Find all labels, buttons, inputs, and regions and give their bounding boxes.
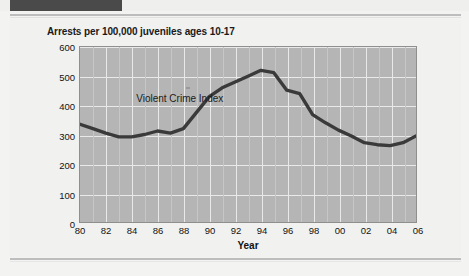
x-tick-label-88: 88 bbox=[179, 225, 190, 236]
header-band bbox=[0, 0, 469, 11]
x-tick-label-02: 02 bbox=[361, 225, 372, 236]
x-tick-label-80: 80 bbox=[75, 225, 86, 236]
series-annotation-label: Violent Crime Index bbox=[136, 93, 223, 104]
y-tick-label-500: 500 bbox=[45, 71, 75, 82]
x-tick-label-06: 06 bbox=[413, 225, 424, 236]
x-tick-label-92: 92 bbox=[231, 225, 242, 236]
page-root: Arrests per 100,000 juveniles ages 10-17… bbox=[0, 0, 469, 276]
y-tick-label-300: 300 bbox=[45, 130, 75, 141]
x-tick-label-04: 04 bbox=[387, 225, 398, 236]
plot-inner bbox=[80, 47, 416, 222]
y-axis-ticks: 0100200300400500600 bbox=[40, 46, 75, 223]
divider-bottom-highlight bbox=[10, 261, 461, 262]
y-tick-label-200: 200 bbox=[45, 160, 75, 171]
x-tick-label-82: 82 bbox=[101, 225, 112, 236]
x-tick-label-98: 98 bbox=[309, 225, 320, 236]
x-tick-label-90: 90 bbox=[205, 225, 216, 236]
series-layer bbox=[80, 47, 416, 222]
x-tick-label-94: 94 bbox=[257, 225, 268, 236]
chart-title: Arrests per 100,000 juveniles ages 10-17 bbox=[47, 26, 235, 37]
figure-panel: Arrests per 100,000 juveniles ages 10-17… bbox=[10, 19, 461, 257]
x-tick-label-86: 86 bbox=[153, 225, 164, 236]
plot-area bbox=[79, 46, 417, 223]
y-tick-label-400: 400 bbox=[45, 101, 75, 112]
x-axis-ticks: 8082848688909294969800020406 bbox=[79, 225, 417, 239]
x-tick-label-00: 00 bbox=[335, 225, 346, 236]
y-tick-label-600: 600 bbox=[45, 42, 75, 53]
y-tick-label-100: 100 bbox=[45, 189, 75, 200]
x-tick-label-84: 84 bbox=[127, 225, 138, 236]
y-tick-label-0: 0 bbox=[45, 219, 75, 230]
x-tick-label-96: 96 bbox=[283, 225, 294, 236]
divider-top bbox=[10, 14, 461, 16]
x-axis-title: Year bbox=[79, 240, 417, 251]
divider-bottom bbox=[10, 258, 461, 260]
header-band-dark bbox=[10, 0, 122, 11]
divider-top-highlight bbox=[10, 17, 461, 18]
series-line-violent-crime-index bbox=[80, 70, 416, 145]
